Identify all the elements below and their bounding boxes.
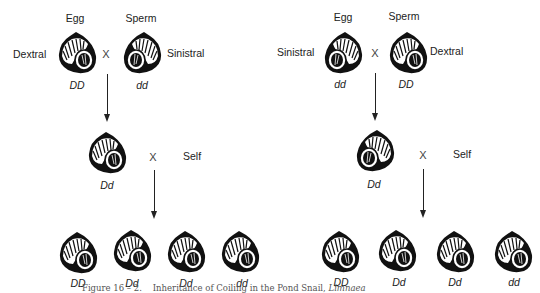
sperm-coil-label: Dextral — [430, 46, 463, 57]
egg-label: Egg — [334, 12, 353, 23]
cross-symbol: X — [102, 49, 109, 60]
arrow-head — [420, 210, 426, 218]
egg-label: Egg — [66, 13, 85, 24]
f2-genotype: Dd — [392, 277, 405, 288]
self-cross-symbol: X — [149, 152, 156, 163]
dextral-snail-shell-icon — [57, 230, 99, 274]
f2-genotype: Dd — [448, 277, 461, 288]
down-arrow — [423, 169, 424, 211]
sperm-genotype: dd — [136, 80, 148, 91]
dextral-snail-shell-icon — [492, 229, 534, 273]
egg-genotype: DD — [69, 80, 84, 91]
f2-genotype: dd — [508, 277, 520, 288]
dextral-snail-shell-icon — [387, 30, 429, 74]
dextral-snail-shell-icon — [111, 228, 153, 272]
sinistral-snail-shell-icon — [323, 30, 365, 74]
dextral-snail-shell-icon — [56, 30, 98, 74]
figure-caption: Figure 16 – 2. Inheritance of Coiling in… — [82, 283, 366, 293]
cross-symbol: X — [371, 48, 378, 59]
dextral-snail-shell-icon — [86, 130, 128, 174]
caption-genus: Limnaea — [329, 283, 366, 293]
down-arrow — [107, 74, 108, 116]
self-label: Self — [183, 151, 201, 162]
egg-coil-label: Sinistral — [277, 47, 314, 58]
egg-genotype: dd — [334, 79, 346, 90]
sperm-label: Sperm — [389, 11, 420, 22]
sinistral-snail-shell-icon — [355, 128, 397, 172]
egg-coil-label: Dextral — [13, 49, 46, 60]
self-cross-symbol: X — [419, 150, 426, 161]
self-label: Self — [453, 149, 471, 160]
arrow-head — [151, 211, 157, 219]
down-arrow — [154, 170, 155, 212]
sperm-genotype: DD — [398, 79, 413, 90]
dextral-snail-shell-icon — [219, 229, 261, 273]
sperm-coil-label: Sinistral — [167, 48, 204, 59]
dextral-snail-shell-icon — [434, 229, 476, 273]
arrow-head — [372, 113, 378, 121]
sinistral-snail-shell-icon — [122, 30, 164, 74]
dextral-snail-shell-icon — [376, 228, 418, 272]
f1-genotype: Dd — [367, 179, 380, 190]
arrow-head — [104, 114, 110, 122]
caption-text: Inheritance of Coiling in the Pond Snail… — [153, 283, 326, 293]
f1-genotype: Dd — [100, 180, 113, 191]
caption-prefix: Figure 16 – 2. — [82, 283, 142, 293]
dextral-snail-shell-icon — [165, 229, 207, 273]
dextral-snail-shell-icon — [319, 229, 361, 273]
down-arrow — [375, 73, 376, 115]
sperm-label: Sperm — [126, 13, 157, 24]
